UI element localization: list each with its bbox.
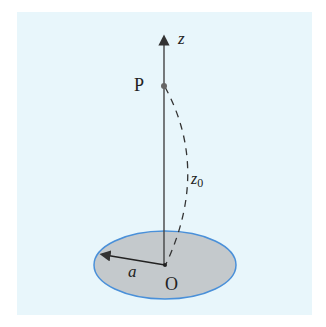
radius-label: a bbox=[128, 262, 137, 281]
point-p-label: P bbox=[134, 75, 144, 95]
distance-label: z0 bbox=[190, 170, 203, 190]
z-axis-label: z bbox=[177, 29, 185, 48]
origin-point bbox=[163, 263, 167, 267]
disc-field-diagram: z P z0 a O bbox=[0, 0, 326, 327]
origin-label: O bbox=[165, 274, 178, 294]
point-p bbox=[161, 83, 167, 89]
